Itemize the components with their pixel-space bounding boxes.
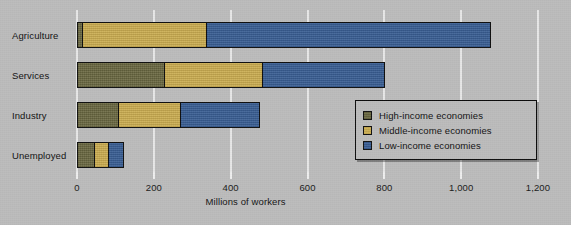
legend-swatch-icon [363, 141, 372, 150]
bar-segment [164, 63, 261, 87]
x-axis-tick [383, 172, 385, 179]
category-label-industry: Industry [12, 110, 83, 121]
bar-segment [94, 143, 108, 167]
bar-unemployed [77, 142, 124, 168]
category-label-services: Services [12, 70, 83, 81]
x-axis-tick-label: 600 [278, 182, 338, 193]
x-axis-tick-label: 800 [354, 182, 414, 193]
bar-segment [82, 23, 206, 47]
x-axis-title-text: Millions of workers [205, 196, 285, 207]
bar-segment [78, 63, 164, 87]
legend-item[interactable]: High-income economies [363, 108, 528, 122]
x-axis-tick [537, 172, 539, 179]
x-axis-tick-label: 400 [201, 182, 261, 193]
x-axis-tick-label: 200 [124, 182, 184, 193]
legend-swatch-icon [363, 126, 372, 135]
bar-services [77, 62, 385, 88]
bar-segment [118, 103, 180, 127]
legend-label: High-income economies [379, 110, 483, 121]
bar-segment [180, 103, 259, 127]
x-axis-title: Millions of workers [0, 196, 571, 207]
x-axis-tick-label: 1,000 [431, 182, 491, 193]
legend-item[interactable]: Low-income economies [363, 138, 528, 152]
legend-swatch-icon [363, 111, 372, 120]
legend-label: Low-income economies [379, 140, 481, 151]
bar-segment [108, 143, 123, 167]
bar-agriculture [77, 22, 491, 48]
x-axis-tick-label: 1,200 [508, 182, 568, 193]
stacked-bar-chart: 02004006008001,0001,200 Millions of work… [0, 0, 571, 225]
x-axis-tick-label: 0 [47, 182, 107, 193]
x-axis-tick [307, 172, 309, 179]
x-axis-tick [230, 172, 232, 179]
gridline [537, 10, 539, 172]
bar-segment [78, 103, 118, 127]
bar-segment [262, 63, 384, 87]
category-label-unemployed: Unemployed [12, 150, 83, 161]
x-axis-tick [153, 172, 155, 179]
chart-legend: High-income economiesMiddle-income econo… [355, 100, 537, 160]
x-axis-tick [460, 172, 462, 179]
legend-item[interactable]: Middle-income economies [363, 123, 528, 137]
x-axis-tick [76, 172, 78, 179]
legend-label: Middle-income economies [379, 125, 492, 136]
bar-industry [77, 102, 260, 128]
bar-segment [206, 23, 490, 47]
category-label-agriculture: Agriculture [12, 30, 83, 41]
